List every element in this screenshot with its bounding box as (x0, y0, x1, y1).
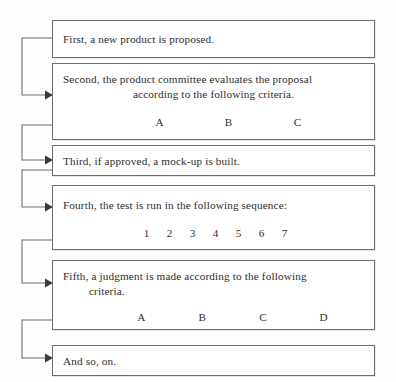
connector-third-to-fourth (22, 170, 53, 212)
box-second-line-2: according to the following criteria. (63, 87, 364, 102)
sequence-label: 5 (227, 227, 250, 239)
criteria-label: D (293, 311, 354, 323)
connector-second-to-third (22, 125, 53, 165)
box-fifth-line-1: Fifth, a judgment is made according to t… (63, 269, 364, 284)
criteria-label: A (125, 116, 194, 128)
process-box-fifth: Fifth, a judgment is made according to t… (52, 260, 375, 330)
sequence-label: 1 (135, 227, 158, 239)
sequence-label: 3 (181, 227, 204, 239)
process-box-fourth: Fourth, the test is run in the following… (52, 185, 375, 250)
box-and-so-on-line-1: And so, on. (63, 354, 364, 369)
box-fifth-line-2: criteria. (63, 284, 364, 299)
connector-fifth-to-and-so-on (22, 320, 53, 363)
criteria-label: B (194, 116, 263, 128)
connector-first-to-second (22, 38, 53, 100)
sequence-label: 7 (273, 227, 296, 239)
box-third-line-1: Third, if approved, a mock-up is built. (63, 154, 364, 169)
criteria-row-second: A B C (53, 116, 374, 128)
sequence-label: 4 (204, 227, 227, 239)
process-box-second: Second, the product committee evaluates … (52, 63, 375, 140)
sequence-label: 6 (250, 227, 273, 239)
criteria-row-fifth: A B C D (53, 311, 374, 323)
process-box-and-so-on: And so, on. (52, 345, 375, 376)
sequence-label: 2 (158, 227, 181, 239)
box-first-line-1: First, a new product is proposed. (63, 32, 364, 47)
criteria-label: A (111, 311, 172, 323)
criteria-label: C (233, 311, 294, 323)
process-box-third: Third, if approved, a mock-up is built. (52, 145, 375, 176)
criteria-label: B (172, 311, 233, 323)
cropped-caption-fragment (0, 0, 396, 3)
process-box-first: First, a new product is proposed. (52, 20, 375, 58)
box-second-line-1: Second, the product committee evaluates … (63, 72, 364, 87)
flowchart-diagram: First, a new product is proposed. Second… (0, 0, 396, 382)
criteria-label: C (263, 116, 332, 128)
box-fourth-line-1: Fourth, the test is run in the following… (63, 198, 364, 213)
connector-fourth-to-fifth (22, 240, 53, 288)
sequence-row-fourth: 1 2 3 4 5 6 7 (53, 227, 374, 239)
